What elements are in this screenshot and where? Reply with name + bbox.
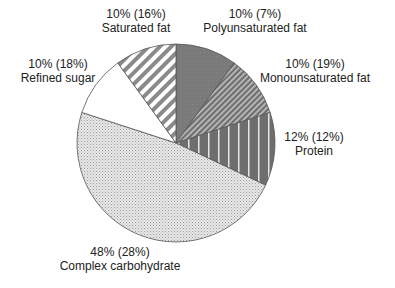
pie-chart: 10% (7%)Polyunsaturated fat10% (19%)Mono… [0,0,395,288]
slice-label-polyunsaturated-fat: 10% (7%)Polyunsaturated fat [203,7,307,35]
pie-chart-canvas: 10% (7%)Polyunsaturated fat10% (19%)Mono… [0,0,395,288]
slice-label-percent: 10% (7%) [229,7,282,21]
slice-label-saturated-fat: 10% (16%)Saturated fat [102,7,171,35]
slice-label-name: Polyunsaturated fat [203,21,307,35]
slice-label-percent: 10% (18%) [28,57,87,71]
slice-label-percent: 10% (19%) [285,57,344,71]
slice-label-name: Protein [295,144,333,158]
slice-label-percent: 12% (12%) [284,130,343,144]
slice-label-refined-sugar: 10% (18%)Refined sugar [21,57,96,85]
slice-label-protein: 12% (12%)Protein [284,130,343,158]
slice-label-name: Refined sugar [21,71,96,85]
slice-label-percent: 48% (28%) [90,245,149,259]
slice-label-name: Monounsaturated fat [260,71,371,85]
slice-label-complex-carbohydrate: 48% (28%)Complex carbohydrate [60,245,181,273]
pie-slices [77,44,275,242]
slice-label-name: Saturated fat [102,21,171,35]
slice-label-monounsaturated-fat: 10% (19%)Monounsaturated fat [260,57,371,85]
slice-label-percent: 10% (16%) [106,7,165,21]
slice-label-name: Complex carbohydrate [60,259,181,273]
